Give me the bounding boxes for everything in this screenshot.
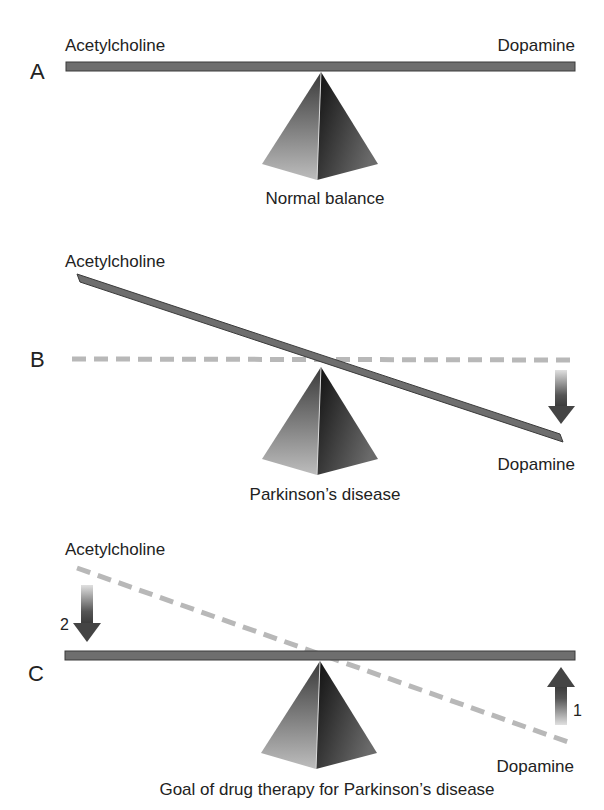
acetylcholine-label: Acetylcholine: [65, 252, 165, 271]
caption: Goal of drug therapy for Parkinson’s dis…: [159, 780, 494, 799]
arrow-down-icon: [73, 585, 101, 642]
panel-a: A Acetylcholine Dopamine Normal balance: [30, 36, 575, 208]
fulcrum-pyramid-icon: [262, 367, 378, 475]
balance-beam: [66, 62, 575, 71]
panel-letter: B: [30, 347, 45, 372]
panel-letter: A: [30, 59, 45, 84]
panel-c: C Acetylcholine 2 1 Dopamine Goal of dru…: [28, 540, 582, 799]
arrow-number: 2: [60, 616, 69, 633]
caption: Parkinson’s disease: [250, 485, 401, 504]
dopamine-label: Dopamine: [498, 455, 576, 474]
panel-letter: C: [28, 661, 44, 686]
seesaw-diagram: A Acetylcholine Dopamine Normal balance …: [0, 0, 604, 810]
fulcrum-pyramid-icon: [262, 72, 378, 180]
acetylcholine-label: Acetylcholine: [65, 36, 165, 55]
acetylcholine-label: Acetylcholine: [65, 540, 165, 559]
arrow-number: 1: [573, 702, 582, 719]
balance-beam: [65, 651, 575, 660]
fulcrum-pyramid-icon: [261, 661, 377, 769]
arrow-down-icon: [548, 370, 575, 424]
caption: Normal balance: [265, 189, 384, 208]
arrow-up-icon: [547, 667, 575, 725]
dopamine-label: Dopamine: [498, 36, 576, 55]
dopamine-label: Dopamine: [497, 757, 575, 776]
panel-b: B Acetylcholine Dopamine Parkinson’s dis…: [30, 252, 575, 504]
